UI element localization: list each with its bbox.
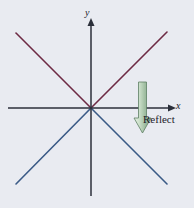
y-axis bbox=[88, 18, 95, 196]
x-axis-arrowhead bbox=[168, 104, 176, 111]
x-axis bbox=[8, 104, 176, 111]
x-axis-label: x bbox=[176, 101, 180, 111]
reflect-annotation-label: Reflect bbox=[143, 114, 175, 125]
reflection-figure: y x Reflect bbox=[0, 0, 194, 208]
y-axis-label: y bbox=[85, 8, 89, 18]
y-axis-arrowhead bbox=[88, 18, 95, 26]
graph-canvas bbox=[0, 0, 194, 208]
